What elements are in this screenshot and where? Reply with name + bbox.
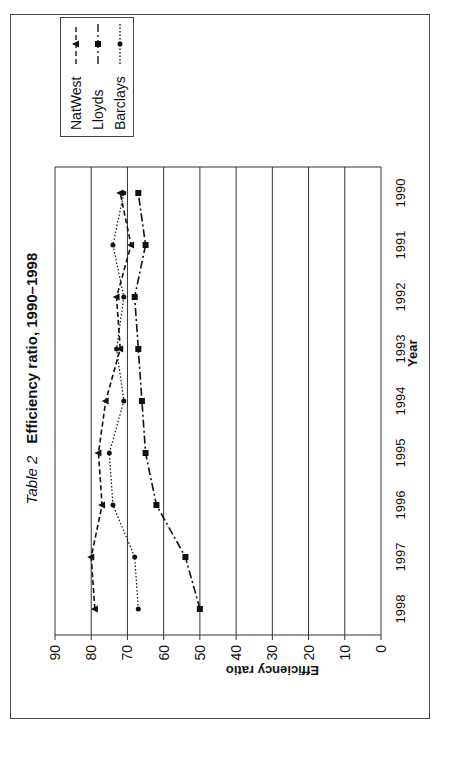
circle-marker-icon [121, 399, 126, 404]
legend-swatch-icon [93, 24, 103, 64]
legend-swatch-icon [115, 24, 125, 64]
y-tick-label: 30 [264, 645, 280, 661]
legend-item-lloyds: Lloyds [87, 18, 109, 136]
legend-label: Barclays [112, 70, 128, 130]
y-tick-label: 0 [373, 645, 389, 653]
square-marker-icon [182, 554, 188, 560]
x-tick-label: 1992 [393, 283, 408, 312]
legend-label: Lloyds [90, 70, 106, 130]
y-tick-label: 40 [228, 645, 244, 661]
legend-label: NatWest [68, 70, 84, 130]
x-tick-label: 1998 [393, 595, 408, 624]
rotated-chart-page: Table 2Efficiency ratio, 1990–1998 Effic… [0, 0, 465, 757]
square-marker-icon [153, 502, 159, 508]
x-tick-label: 1993 [393, 335, 408, 364]
circle-marker-icon [114, 347, 119, 352]
square-marker-icon [197, 606, 203, 612]
legend-item-natwest: NatWest [65, 18, 87, 136]
legend: NatWestLloydsBarclays [60, 17, 134, 137]
square-marker-icon [143, 450, 149, 456]
x-tick-label: 1996 [393, 491, 408, 520]
y-tick-label: 50 [192, 645, 208, 661]
circle-marker-icon [121, 295, 126, 300]
circle-marker-icon [132, 555, 137, 560]
y-tick-label: 60 [156, 645, 172, 661]
square-marker-icon [135, 190, 141, 196]
square-marker-icon [139, 398, 145, 404]
circle-marker-icon [110, 503, 115, 508]
y-tick-label: 70 [119, 645, 135, 661]
x-tick-label: 1991 [393, 231, 408, 260]
legend-item-barclays: Barclays [109, 18, 131, 136]
x-tick-label: 1990 [393, 179, 408, 208]
square-marker-icon [132, 294, 138, 300]
y-tick-label: 10 [337, 645, 353, 661]
triangle-marker-icon [102, 398, 109, 405]
circle-marker-icon [107, 451, 112, 456]
y-tick-label: 20 [301, 645, 317, 661]
circle-marker-icon [136, 607, 141, 612]
x-tick-label: 1995 [393, 439, 408, 468]
x-tick-label: 1997 [393, 543, 408, 572]
circle-marker-icon [121, 191, 126, 196]
y-tick-label: 90 [47, 645, 63, 661]
square-marker-icon [135, 346, 141, 352]
y-tick-label: 80 [83, 645, 99, 661]
square-marker-icon [143, 242, 149, 248]
legend-swatch-icon [71, 24, 81, 64]
circle-marker-icon [110, 243, 115, 248]
x-tick-label: 1994 [393, 387, 408, 416]
